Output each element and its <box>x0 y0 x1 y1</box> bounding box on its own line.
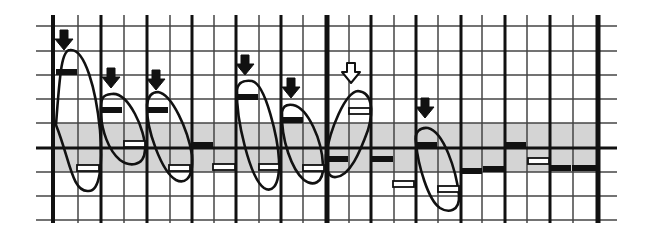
diagram-canvas <box>0 0 649 236</box>
hollow-bar-marker <box>438 186 459 192</box>
filled-bar-marker <box>147 107 168 113</box>
hollow-bar-marker <box>259 164 279 170</box>
down-arrows <box>55 30 434 118</box>
filled-bar-marker <box>192 142 213 148</box>
hollow-bar-marker <box>303 165 324 171</box>
filled-bar-marker <box>237 94 258 100</box>
filled-bar-marker <box>101 107 122 113</box>
filled-bar-marker <box>550 165 571 171</box>
down-arrow-filled-icon <box>55 30 73 50</box>
filled-bar-marker <box>282 117 303 123</box>
filled-bar-marker <box>461 168 482 174</box>
filled-bar-marker <box>327 156 348 162</box>
hollow-bar-marker <box>169 165 190 171</box>
filled-bar-marker <box>483 166 505 172</box>
down-arrow-filled-icon <box>416 98 434 118</box>
filled-bar-marker <box>372 156 393 162</box>
hollow-bar-marker <box>528 158 549 164</box>
down-arrow-filled-icon <box>147 70 165 90</box>
filled-bar-marker <box>416 142 437 148</box>
filled-bar-marker <box>505 142 526 148</box>
down-arrow-hollow-icon <box>342 63 360 83</box>
vertical-grid-lines <box>53 15 598 223</box>
hollow-bar-marker <box>349 108 370 114</box>
hollow-bar-marker <box>77 165 99 171</box>
filled-bar-marker <box>572 165 596 171</box>
down-arrow-filled-icon <box>282 78 300 98</box>
hollow-bar-marker <box>393 181 414 187</box>
down-arrow-filled-icon <box>236 55 254 75</box>
hollow-bar-marker <box>213 164 235 170</box>
down-arrow-filled-icon <box>102 68 120 88</box>
waveform-grid-diagram <box>0 0 649 236</box>
filled-bar-marker <box>56 69 77 75</box>
hollow-bar-marker <box>124 141 145 147</box>
